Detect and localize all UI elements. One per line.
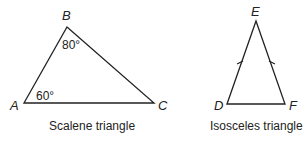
vertex-label-e: E [251, 4, 260, 19]
isosceles-triangle: E D F Isosceles triangle [210, 4, 303, 133]
angle-label-a: 60° [36, 89, 54, 103]
triangles-diagram: A B C 60° 80° Scalene triangle E D F Iso… [0, 0, 306, 141]
vertex-label-c: C [158, 98, 168, 113]
vertex-label-d: D [214, 98, 223, 113]
vertex-label-b: B [62, 8, 71, 23]
angle-label-b: 80° [62, 38, 80, 52]
isosceles-triangle-shape [227, 21, 285, 104]
vertex-label-f: F [289, 98, 298, 113]
isosceles-caption: Isosceles triangle [210, 119, 303, 133]
vertex-label-a: A [9, 98, 19, 113]
scalene-caption: Scalene triangle [49, 119, 135, 133]
scalene-triangle: A B C 60° 80° Scalene triangle [9, 8, 168, 133]
